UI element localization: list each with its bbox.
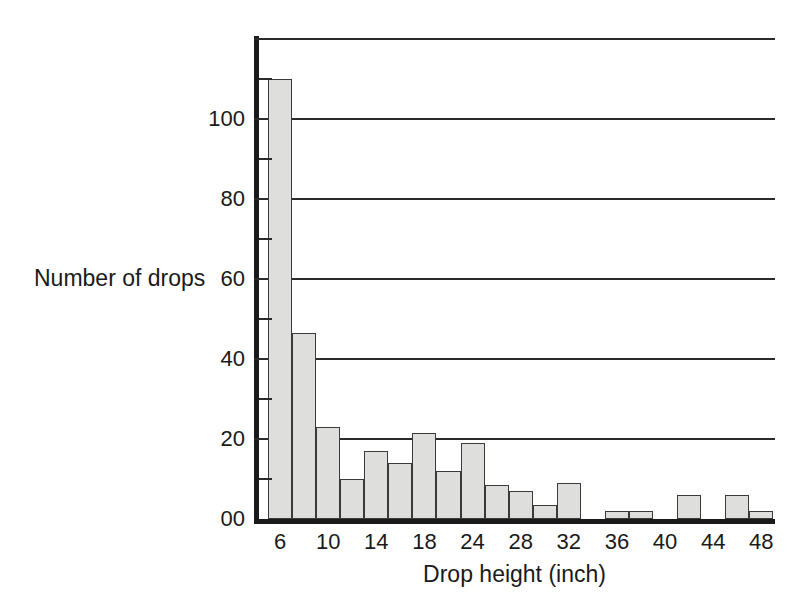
gridline-60 (254, 278, 775, 280)
bar-12 (340, 479, 364, 519)
y-minor-tick-10 (259, 478, 272, 480)
bar-48 (749, 511, 773, 519)
y-axis-title: Number of drops (34, 267, 205, 290)
y-minor-tick-110 (259, 78, 272, 80)
y-minor-tick-90 (259, 158, 272, 160)
bar-18 (412, 433, 436, 519)
bar-20 (436, 471, 460, 519)
y-tick-label-100: 100 (208, 108, 245, 130)
bar-38 (629, 511, 653, 519)
bar-30 (533, 505, 557, 519)
x-tick-label-48: 48 (731, 531, 791, 553)
gridline-80 (254, 198, 775, 200)
bar-10 (316, 427, 340, 519)
x-axis-line (254, 519, 775, 524)
bar-26 (485, 485, 509, 519)
plot-area (254, 38, 775, 519)
bar-46 (725, 495, 749, 519)
bar-6 (268, 79, 292, 519)
bar-42 (677, 495, 701, 519)
y-tick-label-0: 00 (221, 508, 245, 530)
y-tick-label-80: 80 (221, 188, 245, 210)
gridline-40 (254, 358, 775, 360)
y-minor-tick-50 (259, 318, 272, 320)
bar-36 (605, 511, 629, 519)
bar-8 (292, 333, 316, 519)
y-tick-label-20: 20 (221, 428, 245, 450)
x-axis-title: Drop height (inch) (254, 563, 775, 586)
y-tick-label-60: 60 (221, 268, 245, 290)
bar-28 (509, 491, 533, 519)
bar-24 (461, 443, 485, 519)
y-minor-tick-30 (259, 398, 272, 400)
bar-32 (557, 483, 581, 519)
y-tick-label-40: 40 (221, 348, 245, 370)
bar-16 (388, 463, 412, 519)
y-minor-tick-70 (259, 238, 272, 240)
gridline-100 (254, 118, 775, 120)
gridline-120 (254, 38, 775, 40)
histogram-figure: Number of drops 0020406080100 6101418242… (0, 0, 800, 609)
bar-14 (364, 451, 388, 519)
